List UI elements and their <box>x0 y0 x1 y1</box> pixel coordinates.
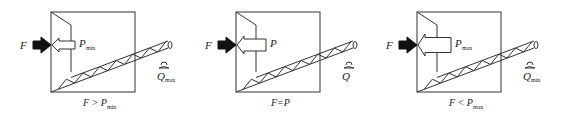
pressure-label: P <box>454 37 462 49</box>
pressure-subscript: max <box>462 45 472 51</box>
caption-subscript: max <box>473 104 483 110</box>
discharge-outlet <box>168 42 172 49</box>
force-arrow-icon <box>399 37 417 53</box>
discharge-outlet <box>534 42 538 49</box>
hopper-box <box>236 12 320 92</box>
condition-caption: F=P <box>270 97 290 108</box>
flow-label: Q <box>523 70 531 82</box>
force-arrow-icon <box>218 37 236 53</box>
caption-expression: F < P <box>448 97 473 108</box>
pressure-arrow-icon <box>418 34 451 56</box>
caption-expression: F=P <box>270 97 290 108</box>
pressure-subscript: min <box>86 45 95 51</box>
panel-3: FPmaxQminF < Pmax <box>385 12 540 110</box>
flow-subscript: min <box>531 77 540 83</box>
panel-2: FPQF=P <box>204 12 357 108</box>
conveyor-bottom-edge <box>236 48 353 92</box>
diagram-svg: FPminQmaxF > PminFPQF=PFPmaxQminF < Pmax <box>0 0 562 115</box>
pressure-arrow-icon <box>237 36 266 54</box>
caption-expression: F > P <box>82 97 107 108</box>
condition-caption: F > Pmin <box>82 97 116 110</box>
conveyor-bottom-edge <box>417 48 534 92</box>
pressure-label: P <box>78 37 86 49</box>
flow-label: Q <box>342 70 350 82</box>
panel-1: FPminQmaxF > Pmin <box>19 12 175 110</box>
flow-subscript: max <box>165 77 175 83</box>
caption-subscript: min <box>107 104 116 110</box>
force-label: F <box>204 39 212 51</box>
discharge-outlet <box>353 42 357 49</box>
force-label: F <box>385 39 393 51</box>
condition-caption: F < Pmax <box>448 97 483 110</box>
hopper-box <box>51 12 135 92</box>
pressure-arrow-icon <box>52 38 75 52</box>
force-arrow-icon <box>33 37 51 53</box>
force-label: F <box>19 39 27 51</box>
material-pile-icon <box>159 62 169 68</box>
flow-label: Q <box>157 70 165 82</box>
conveyor-top-edge <box>437 41 534 77</box>
material-pile-icon <box>344 62 354 68</box>
diagram-canvas: FPminQmaxF > PminFPQF=PFPmaxQminF < Pmax <box>0 0 562 115</box>
material-pile-icon <box>525 62 535 68</box>
pressure-label: P <box>269 37 277 49</box>
conveyor-bottom-edge <box>51 48 168 92</box>
